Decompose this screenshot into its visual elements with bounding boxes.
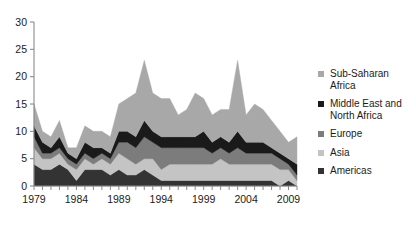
x-tick-label: 2009: [277, 193, 301, 205]
legend-label: Sub-Saharan Africa: [330, 68, 389, 91]
legend-item[interactable]: Asia: [318, 147, 416, 159]
y-tick-label: 0: [21, 180, 27, 192]
legend-item[interactable]: Sub-Saharan Africa: [318, 68, 416, 91]
legend-item[interactable]: Europe: [318, 128, 416, 140]
legend-swatch-icon: [318, 101, 324, 107]
legend-swatch-icon: [318, 150, 324, 156]
x-tick-label: 1999: [192, 193, 216, 205]
legend-label: Europe: [330, 128, 362, 140]
legend-item[interactable]: Americas: [318, 165, 416, 177]
chart-legend: Sub-Saharan AfricaMiddle East and North …: [318, 68, 416, 184]
y-tick-label: 20: [15, 70, 27, 82]
y-tick-label: 30: [15, 16, 27, 28]
legend-label: Middle East and North Africa: [330, 98, 402, 121]
y-tick-label: 15: [15, 98, 27, 110]
legend-label: Asia: [330, 147, 349, 159]
x-tick-label: 1979: [22, 193, 46, 205]
legend-label: Americas: [330, 165, 372, 177]
legend-swatch-icon: [318, 131, 324, 137]
x-tick-label: 1984: [65, 193, 89, 205]
x-tick-label: 1994: [150, 193, 174, 205]
legend-swatch-icon: [318, 168, 324, 174]
x-tick-label: 1989: [107, 193, 131, 205]
legend-swatch-icon: [318, 71, 324, 77]
x-tick-label: 2004: [234, 193, 258, 205]
legend-item[interactable]: Middle East and North Africa: [318, 98, 416, 121]
y-tick-label: 10: [15, 125, 27, 137]
y-tick-label: 5: [21, 152, 27, 164]
y-tick-label: 25: [15, 43, 27, 55]
